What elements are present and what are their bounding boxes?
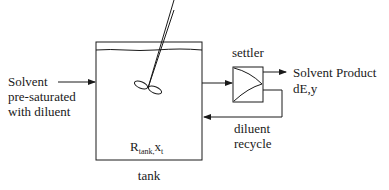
settler: [233, 67, 263, 102]
feed-label-line1: Solvent: [8, 74, 48, 89]
settler-upper-curve: [234, 68, 262, 84]
tank-variable-label: Rtank,xt: [130, 139, 164, 156]
tank-label: tank: [138, 168, 161, 183]
settler-body: [233, 67, 263, 102]
feed-label-line3: with diluent: [8, 104, 71, 119]
tank-var-subscript: t: [161, 147, 164, 156]
settler-lower-curve: [234, 84, 262, 101]
agitator-icon: [133, 0, 174, 96]
feed-label-line2: pre-saturated: [8, 89, 76, 104]
tank: [96, 42, 202, 160]
tank-symbol: R: [130, 139, 139, 154]
liquid-surface: [96, 49, 202, 51]
recycle-label-line1: diluent: [234, 121, 270, 136]
impeller-blade-left: [133, 79, 148, 90]
impeller-blade-right: [147, 84, 162, 95]
tank-subscript: tank,: [139, 147, 155, 156]
product-label-line1: Solvent Product: [293, 65, 377, 80]
process-diagram: Solvent pre-saturated with diluent Rtank…: [0, 0, 389, 190]
tank-body: [96, 42, 202, 160]
product-label-line2: dE,y: [293, 81, 318, 96]
recycle-label-line2: recycle: [234, 136, 272, 151]
settler-label: settler: [232, 45, 264, 60]
